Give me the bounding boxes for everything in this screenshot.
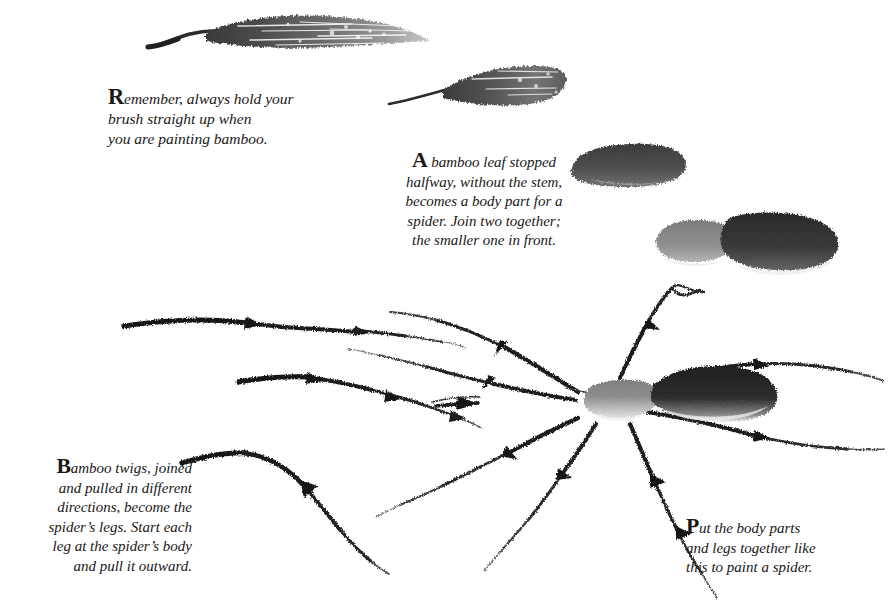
caption-twigs-line-4: spider’s legs. Start each [0, 518, 192, 538]
painting-plate: Remember, always hold your brush straigh… [0, 0, 888, 615]
caption-remember: Remember, always hold your brush straigh… [108, 88, 338, 149]
caption-twigs-line-3: directions, become the [0, 498, 192, 518]
caption-bamboo-leaf: A bamboo leaf stopped halfway, without t… [368, 152, 600, 251]
dropcap-r: R [108, 84, 124, 109]
caption-twigs-line-1: amboo twigs, joined [71, 460, 192, 476]
caption-twigs: Bamboo twigs, joined and pulled in diffe… [0, 458, 192, 576]
caption-put-line-2: and legs together like [686, 539, 886, 559]
caption-put-line-1: ut the body parts [699, 520, 800, 536]
caption-bamboo-leaf-line-3: becomes a body part for a [368, 192, 600, 212]
caption-remember-line-1: emember, always hold your [124, 90, 294, 107]
spider-abdomen [651, 366, 778, 422]
caption-bamboo-leaf-line-2: halfway, without the stem, [368, 173, 600, 193]
stroke-long-bamboo-leaf [148, 15, 430, 47]
caption-remember-line-2: brush straight up when [108, 109, 338, 129]
stroke-bamboo-twig-straight [124, 316, 466, 348]
dropcap-a: A [412, 148, 428, 172]
caption-remember-line-3: you are painting bamboo. [108, 129, 338, 149]
stroke-bamboo-twig-curved [182, 453, 389, 574]
caption-twigs-line-6: and pull it outward. [0, 557, 192, 577]
caption-bamboo-leaf-line-1: bamboo leaf stopped [431, 154, 556, 170]
caption-twigs-line-2: and pulled in different [0, 479, 192, 499]
caption-put-line-3: this to paint a spider. [686, 558, 886, 578]
caption-put-together: Put the body parts and legs together lik… [686, 518, 886, 578]
stroke-joined-body-parts [656, 212, 838, 275]
dropcap-b: B [56, 454, 70, 478]
caption-bamboo-leaf-line-4: spider. Join two together; [368, 212, 600, 232]
dropcap-p: P [686, 514, 699, 538]
caption-bamboo-leaf-line-5: the smaller one in front. [368, 231, 600, 251]
caption-twigs-line-5: leg at the spider’s body [0, 537, 192, 557]
stroke-half-bamboo-leaf [389, 66, 566, 106]
